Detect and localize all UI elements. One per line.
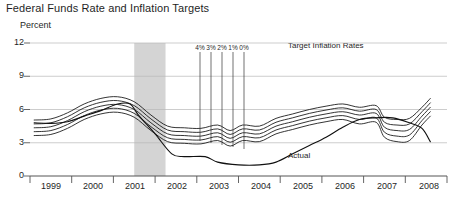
chart-container: Federal Funds Rate and Inflation Targets… (0, 0, 460, 198)
plot-area (0, 0, 460, 198)
